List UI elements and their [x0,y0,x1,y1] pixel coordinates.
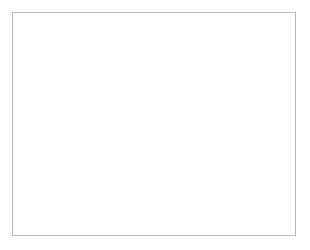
chart-figure: 020406080100120140160180 0.51.01.52.02.5… [0,0,310,250]
figure-border [12,12,296,236]
